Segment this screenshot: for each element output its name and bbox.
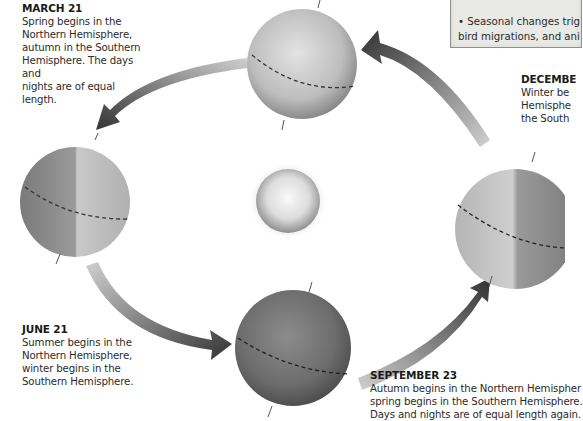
- arrow-december-to-march: [361, 30, 490, 147]
- caption-june: JUNE 21 Summer begins in the Northern He…: [22, 323, 142, 388]
- caption-date: JUNE 21: [22, 323, 142, 336]
- caption-december: DECEMBE Winter be Hemisphe the South: [521, 73, 581, 125]
- caption-text: Autumn begins in the Northern Hemispher …: [370, 382, 570, 421]
- caption-march: MARCH 21 Spring begins in the Northern H…: [22, 2, 152, 106]
- globe-june: [20, 133, 130, 264]
- globe-september: [235, 282, 351, 417]
- caption-september: SEPTEMBER 23 Autumn begins in the Northe…: [370, 369, 570, 421]
- caption-date: SEPTEMBER 23: [370, 369, 570, 382]
- caption-text: Winter be Hemisphe the South: [521, 86, 581, 125]
- globe-march: [247, 0, 357, 130]
- caption-text: Spring begins in the Northern Hemisphere…: [22, 15, 152, 106]
- globe-december: [455, 152, 565, 289]
- sun-icon: [248, 161, 328, 241]
- caption-text: Summer begins in the Northern Hemisphere…: [22, 336, 142, 388]
- caption-date: DECEMBE: [521, 73, 581, 86]
- caption-date: MARCH 21: [22, 2, 152, 15]
